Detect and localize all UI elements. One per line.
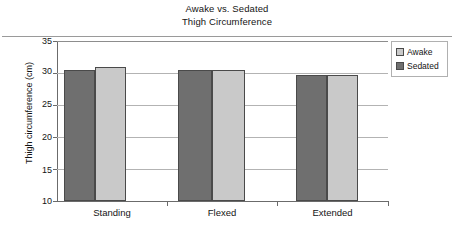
title-separator-rule bbox=[2, 36, 452, 37]
x-category-label-standing: Standing bbox=[57, 207, 167, 218]
legend-item-awake[interactable]: Awake bbox=[396, 45, 444, 59]
bar-extended-sedated[interactable] bbox=[296, 75, 327, 201]
bar-flexed-awake[interactable] bbox=[212, 70, 245, 201]
chart-title-line-1: Awake vs. Sedated bbox=[0, 3, 454, 16]
y-tick-label-25: 25 bbox=[16, 100, 52, 109]
legend-swatch-sedated-icon bbox=[396, 62, 404, 70]
plot-area bbox=[57, 41, 388, 201]
bar-extended-awake[interactable] bbox=[327, 75, 358, 201]
x-category-label-flexed: Flexed bbox=[167, 207, 277, 218]
gridline-35 bbox=[57, 41, 388, 42]
x-axis-line bbox=[57, 201, 389, 202]
bar-standing-sedated[interactable] bbox=[64, 70, 95, 201]
chart-legend: Awake Sedated bbox=[391, 41, 448, 77]
chart-title: Awake vs. Sedated Thigh Circumference bbox=[0, 3, 454, 28]
bar-standing-awake[interactable] bbox=[95, 67, 126, 201]
x-tick-mark-3 bbox=[388, 201, 389, 206]
x-tick-mark-1 bbox=[167, 201, 168, 206]
legend-swatch-awake-icon bbox=[396, 48, 404, 56]
x-tick-mark-2 bbox=[277, 201, 278, 206]
y-tick-label-10: 10 bbox=[16, 197, 52, 206]
legend-label-sedated: Sedated bbox=[407, 62, 439, 71]
x-category-label-extended: Extended bbox=[277, 207, 388, 218]
y-tick-label-20: 20 bbox=[16, 133, 52, 142]
y-tick-label-15: 15 bbox=[16, 166, 52, 175]
y-axis-tick-labels: 35 30 25 20 15 10 bbox=[12, 0, 52, 229]
chart-figure: Awake vs. Sedated Thigh Circumference Th… bbox=[0, 0, 454, 229]
legend-item-sedated[interactable]: Sedated bbox=[396, 59, 444, 73]
legend-label-awake: Awake bbox=[407, 48, 432, 57]
chart-title-line-2: Thigh Circumference bbox=[0, 16, 454, 29]
y-tick-label-30: 30 bbox=[16, 67, 52, 76]
y-tick-label-35: 35 bbox=[16, 37, 52, 46]
bar-flexed-sedated[interactable] bbox=[178, 70, 212, 201]
